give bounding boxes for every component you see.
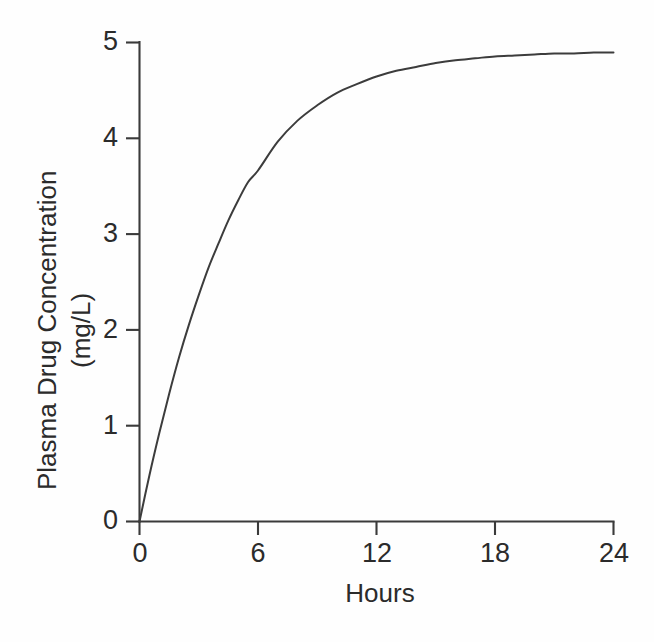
y-tick-label-5: 5 — [78, 28, 118, 55]
y-tick-label-3: 3 — [78, 220, 118, 247]
y-tick-label-1: 1 — [78, 412, 118, 439]
x-tick-label-24: 24 — [584, 540, 644, 567]
y-tick-label-4: 4 — [78, 124, 118, 151]
x-tick-label-18: 18 — [465, 540, 525, 567]
chart-figure: 5 4 3 2 1 0 0 6 12 18 24 Hours Plasma Dr… — [0, 0, 654, 642]
y-axis-title-line-2: (mg/L) — [66, 293, 97, 368]
y-tick-label-0: 0 — [78, 507, 118, 534]
data-curve-plasma-concentration — [140, 52, 614, 521]
x-tick-label-0: 0 — [110, 540, 170, 567]
y-axis-title-line-1: Plasma Drug Concentration — [32, 171, 63, 490]
x-tick-label-12: 12 — [347, 540, 407, 567]
x-axis-title: Hours — [320, 578, 440, 609]
x-tick-label-6: 6 — [228, 540, 288, 567]
